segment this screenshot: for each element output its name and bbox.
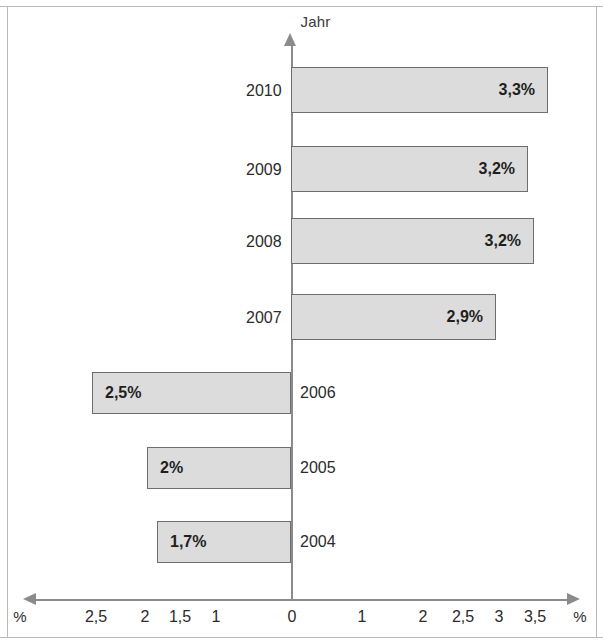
x-tick-label-neg-1-5: 1,5: [169, 608, 191, 626]
x-tick-label-pos-2: 2: [419, 608, 428, 626]
bar-2005: 2%: [147, 447, 291, 489]
x-tick-label-pos-3: 3: [495, 608, 504, 626]
year-label-2006: 2006: [300, 384, 336, 402]
y-axis-title-text: Jahr: [301, 13, 331, 30]
y-axis-arrow-icon: [284, 33, 296, 46]
x-axis-unit-right: %: [573, 608, 586, 625]
bar-chart-figure: Jahr 3,3% 2010 3,2% 2009 3,2% 2008 2,9% …: [0, 0, 603, 643]
frame-border-top: [0, 6, 603, 7]
frame-border-bottom: [0, 637, 603, 638]
frame-border-left: [7, 6, 8, 638]
bar-value-2008: 3,2%: [485, 232, 521, 250]
year-label-2009: 2009: [246, 161, 282, 179]
bar-value-2007: 2,9%: [447, 308, 483, 326]
bar-value-2010: 3,3%: [499, 81, 535, 99]
year-label-2007: 2007: [246, 309, 282, 327]
x-axis-unit-left: %: [13, 608, 26, 625]
x-tick-label-pos-2-5: 2,5: [452, 608, 474, 626]
bar-2010: 3,3%: [291, 67, 548, 113]
x-tick-label-neg-2: 2: [141, 608, 150, 626]
bar-2009: 3,2%: [291, 146, 528, 192]
bar-value-2006: 2,5%: [105, 384, 141, 402]
x-tick-label-pos-3-5: 3,5: [524, 608, 546, 626]
x-axis-line: [34, 599, 568, 601]
year-label-2008: 2008: [246, 233, 282, 251]
x-tick-label-neg-2-5: 2,5: [85, 608, 107, 626]
year-label-2005: 2005: [300, 459, 336, 477]
bar-value-2009: 3,2%: [479, 160, 515, 178]
x-axis-arrow-right-icon: [567, 593, 580, 605]
bar-2008: 3,2%: [291, 218, 534, 264]
x-tick-label-zero: 0: [288, 608, 297, 626]
bar-2006: 2,5%: [92, 372, 291, 414]
x-tick-label-neg-1: 1: [212, 608, 221, 626]
year-label-2004: 2004: [300, 533, 336, 551]
bar-2004: 1,7%: [157, 521, 291, 563]
x-tick-label-pos-1: 1: [358, 608, 367, 626]
bar-value-2004: 1,7%: [170, 533, 206, 551]
y-axis-title: Jahr: [0, 13, 603, 30]
bar-value-2005: 2%: [160, 459, 183, 477]
year-label-2010: 2010: [246, 82, 282, 100]
frame-border-right: [596, 6, 597, 638]
bar-2007: 2,9%: [291, 294, 496, 340]
x-tick-mark-zero: [292, 582, 293, 600]
